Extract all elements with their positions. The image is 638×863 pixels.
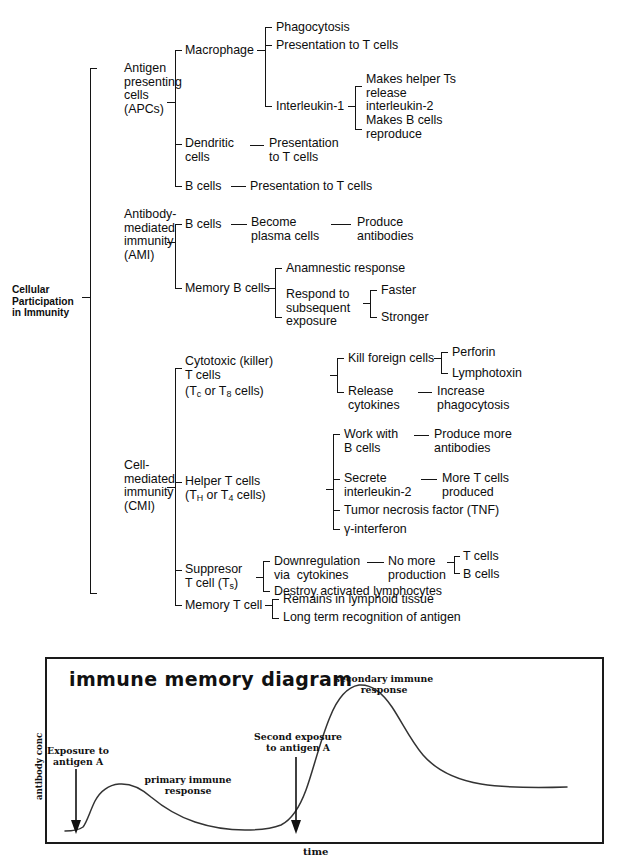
bcells-ami-connector <box>231 224 247 225</box>
macrophage-cap-bottom <box>265 106 272 107</box>
node-label-cytotoxic-line3: (Tc or T8 cells) <box>185 385 264 401</box>
apc-cap-mid <box>175 144 182 145</box>
node-label-respond-subsequent: Respond to subsequent exposure <box>286 288 350 329</box>
node-label-helper-line2: (TH or T4 cells) <box>185 489 266 505</box>
root-trunk <box>90 68 91 594</box>
node-label-secrete-interleukin-2: Secrete interleukin-2 <box>344 472 412 499</box>
suppressor-l2-pre: T cell (T <box>185 576 230 590</box>
annotation-exposure-2: Second exposure to antigen A <box>243 731 353 753</box>
node-label-b-cells-ami: B cells <box>185 218 222 232</box>
memoryb-cap-top <box>275 268 282 269</box>
leaf-presentation-t-cells-dc: Presentation to T cells <box>269 137 339 164</box>
immune-memory-chart: immune memory diagram Exposure to antige… <box>45 657 604 844</box>
node-label-work-with-b-cells: Work with B cells <box>344 428 398 455</box>
helper-l2-mid: or T <box>203 488 228 502</box>
memoryt-cap-bottom <box>272 618 279 619</box>
node-label-helper-line1: Helper T cells <box>185 475 260 489</box>
cytotoxic-l3-post: cells) <box>231 384 263 398</box>
leaf-anamnestic-response: Anamnestic response <box>286 262 405 276</box>
leaf-faster: Faster <box>381 284 416 298</box>
leaf-stronger: Stronger <box>381 311 429 325</box>
leaf-t-cells-suppressor: T cells <box>463 550 499 564</box>
root-label: Cellular Participation in Immunity <box>12 284 74 319</box>
node-label-no-more-production: No more production <box>388 555 446 582</box>
macrophage-cap-mid <box>265 45 272 46</box>
leaf-become-plasma-cells: Become plasma cells <box>251 216 319 243</box>
helper-cap-top <box>333 434 340 435</box>
annotation-primary-response: primary immune response <box>133 774 243 796</box>
kill-cap-top <box>441 352 448 353</box>
release-connector <box>418 392 432 393</box>
leaf-tumor-necrosis-factor: Tumor necrosis factor (TNF) <box>344 504 499 518</box>
node-label-release-cytokines: Release cytokines <box>348 385 400 412</box>
memoryt-trunk <box>272 599 273 619</box>
node-label-cytotoxic-line2: T cells <box>185 369 221 383</box>
cmi-cap-suppressor <box>175 570 182 571</box>
branch-label-apc: Antigen presenting cells (APCs) <box>124 62 182 116</box>
leaf-b-cells-suppressor: B cells <box>463 568 500 582</box>
leaf-lymphotoxin: Lymphotoxin <box>452 367 522 381</box>
node-label-suppressor-line1: Suppresor <box>185 563 242 577</box>
leaf-presentation-t-cells-mac: Presentation to T cells <box>276 39 398 53</box>
cytotoxic-l3-pre: (T <box>185 384 197 398</box>
immunity-figure: Cellular Participation in Immunity Antig… <box>0 0 638 863</box>
leaf-more-t-cells-produced: More T cells produced <box>442 472 509 499</box>
helper-l2-post: cells) <box>233 488 265 502</box>
leaf-makes-b-cells: Makes B cells reproduce <box>366 114 442 141</box>
il1-cap-top <box>355 86 362 87</box>
exposure-1-arrow <box>71 769 81 834</box>
leaf-phagocytosis: Phagocytosis <box>276 21 350 35</box>
node-label-dendritic-cells: Dendritic cells <box>185 137 234 164</box>
memoryb-cap-bottom <box>275 317 282 318</box>
node-label-macrophage: Macrophage <box>185 44 254 58</box>
ami-trunk <box>175 224 176 289</box>
exposure-2-arrow <box>291 757 301 834</box>
leaf-gamma-interferon: γ-interferon <box>344 523 407 537</box>
helper-cap-tnf <box>333 510 340 511</box>
node-label-interleukin-1: Interleukin-1 <box>276 100 344 114</box>
workwith-connector <box>414 435 429 436</box>
cytotoxic-trunk <box>337 358 338 393</box>
leaf-remains-lymphoid-tissue: Remains in lymphoid tissue <box>283 593 434 607</box>
root-trunk-cap-bottom <box>90 593 97 594</box>
nomore-cap-top <box>454 556 460 557</box>
memoryb-trunk <box>275 268 276 318</box>
respond-cap-bottom <box>370 317 377 318</box>
branch-label-ami: Antibody- mediated immunity (AMI) <box>124 208 176 262</box>
il1-cap-bottom <box>355 129 362 130</box>
node-label-downregulation: Downregulation via cytokines <box>274 555 360 582</box>
nomore-trunk <box>454 556 455 574</box>
apc-cap-top <box>175 50 182 51</box>
cytotoxic-cap-bottom <box>337 392 344 393</box>
chart-x-axis-label: time <box>303 846 328 857</box>
node-label-b-cells-apc: B cells <box>185 180 222 194</box>
cytotoxic-cap-top <box>337 358 344 359</box>
chart-y-axis-label: antibody conc <box>34 733 44 800</box>
kill-cap-bottom <box>441 373 448 374</box>
node-label-cytotoxic-line1: Cytotoxic (killer) <box>185 355 273 369</box>
leaf-makes-helper-ts: Makes helper Ts release interleukin-2 <box>366 73 456 114</box>
suppressor-cap-bottom <box>263 591 270 592</box>
respond-trunk <box>370 290 371 318</box>
leaf-presentation-t-cells-bc: Presentation to T cells <box>250 180 372 194</box>
suppressor-l2-post: ) <box>234 576 238 590</box>
downreg-connector <box>367 562 384 563</box>
apc-trunk <box>175 50 176 187</box>
il1-trunk <box>355 86 356 130</box>
cmi-cap-helper <box>175 482 182 483</box>
node-label-memory-b-cells: Memory B cells <box>185 282 270 296</box>
leaf-produce-antibodies: Produce antibodies <box>357 216 414 243</box>
plasma-produce-connector <box>331 224 351 225</box>
macrophage-cap-top <box>265 27 272 28</box>
apc-cap-bottom <box>175 186 182 187</box>
helper-l2-pre: (T <box>185 488 197 502</box>
cytotoxic-l3-mid: or T <box>201 384 226 398</box>
bcells-apc-connector <box>231 186 246 187</box>
ami-cap-bottom <box>175 288 182 289</box>
cmi-cap-top <box>175 368 182 369</box>
leaf-perforin: Perforin <box>452 346 495 360</box>
leaf-increase-phagocytosis: Increase phagocytosis <box>437 385 509 412</box>
helper-cap-bottom <box>333 529 340 530</box>
ami-cap-top <box>175 224 182 225</box>
kill-trunk <box>441 352 442 374</box>
